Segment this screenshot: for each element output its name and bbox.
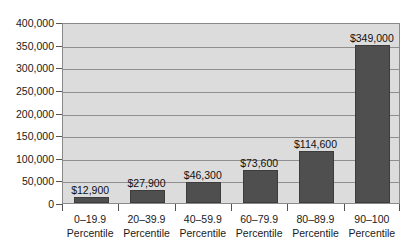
y-axis-labels: 050,000100,000150,000200,000250,000300,0… [0,0,54,249]
x-axis-category-range: 80–89.9 [292,212,339,226]
bar [186,182,221,203]
bar-value-label: $27,900 [128,178,166,189]
gridline [63,160,399,161]
bar-value-label: $12,900 [71,185,109,196]
plot-area [62,23,400,204]
bar [130,190,165,203]
x-axis-category-range: 90–100 [348,212,395,226]
x-axis-tickmark [175,204,176,211]
x-axis-category-label: 20–39.9Percentile [123,212,170,240]
y-axis-tick-label: 100,000 [0,154,54,165]
x-axis-category-unit: Percentile [179,226,226,240]
x-axis-tickmark [118,204,119,211]
x-axis-category-unit: Percentile [123,226,170,240]
x-axis-category-label: 60–79.9Percentile [236,212,283,240]
x-axis-tickmark [344,204,345,211]
bar [299,151,334,203]
x-axis-category-unit: Percentile [348,226,395,240]
gridline [63,137,399,138]
x-axis-category-unit: Percentile [236,226,283,240]
gridline [63,182,399,183]
x-axis-tickmarks [62,204,400,211]
y-axis-tick-label: 200,000 [0,108,54,119]
y-axis-tick-label: 400,000 [0,18,54,29]
x-axis-category-range: 20–39.9 [123,212,170,226]
x-axis-tickmark [231,204,232,211]
x-axis-labels: 0–19.9Percentile20–39.9Percentile40–59.9… [62,212,400,246]
x-axis-category-range: 40–59.9 [179,212,226,226]
y-axis-tick-label: 150,000 [0,131,54,142]
bar [74,197,109,203]
x-axis-tickmark [287,204,288,211]
gridline [63,69,399,70]
x-axis-category-label: 90–100Percentile [348,212,395,240]
bar [243,170,278,203]
gridline [63,47,399,48]
x-axis-category-range: 60–79.9 [236,212,283,226]
bar-value-label: $46,300 [184,170,222,181]
bar-value-label: $114,600 [294,139,337,150]
x-axis-category-unit: Percentile [292,226,339,240]
bar-chart: 050,000100,000150,000200,000250,000300,0… [0,0,418,249]
bar-value-label: $73,600 [240,158,278,169]
x-axis-category-label: 80–89.9Percentile [292,212,339,240]
y-axis-tick-label: 50,000 [0,176,54,187]
bar [355,45,390,203]
x-axis-category-label: 40–59.9Percentile [179,212,226,240]
x-axis-category-label: 0–19.9Percentile [67,212,114,240]
gridline [63,92,399,93]
y-axis-tick-label: 250,000 [0,86,54,97]
x-axis-category-range: 0–19.9 [67,212,114,226]
gridline [63,115,399,116]
x-axis-tickmark [399,204,400,211]
y-axis-tick-label: 0 [0,199,54,210]
x-axis-category-unit: Percentile [67,226,114,240]
y-axis-tick-label: 350,000 [0,40,54,51]
x-axis-tickmark [62,204,63,211]
bar-value-label: $349,000 [350,33,394,44]
y-axis-tick-label: 300,000 [0,63,54,74]
